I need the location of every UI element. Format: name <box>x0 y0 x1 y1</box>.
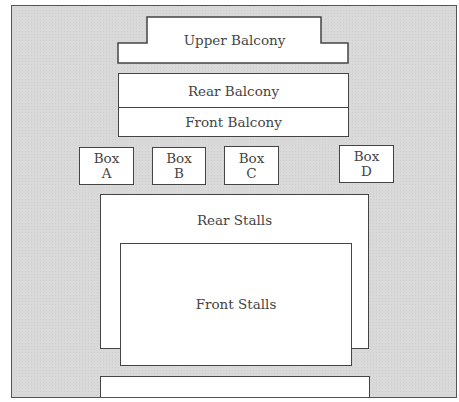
box-c-label-line1: Box <box>239 151 265 166</box>
rear-stalls-label: Rear Stalls <box>197 213 272 228</box>
upper-balcony-label: Upper Balcony <box>184 32 286 48</box>
front-stalls-label: Front Stalls <box>196 297 277 312</box>
box-a-section[interactable]: Box A <box>79 147 134 185</box>
rear-balcony-section[interactable]: Rear Balcony <box>118 73 349 109</box>
bottom-area-section[interactable] <box>100 376 370 397</box>
box-b-label-line2: B <box>174 166 184 181</box>
front-stalls-section[interactable]: Front Stalls <box>120 243 352 366</box>
box-a-label-line1: Box <box>94 151 120 166</box>
box-c-label-line2: C <box>246 166 256 181</box>
box-d-label-line1: Box <box>354 149 380 164</box>
box-a-label-line2: A <box>102 166 112 181</box>
upper-balcony-section[interactable]: Upper Balcony <box>147 17 322 63</box>
box-d-label-line2: D <box>361 164 372 179</box>
front-balcony-label: Front Balcony <box>185 115 282 130</box>
rear-balcony-label: Rear Balcony <box>188 84 279 99</box>
box-c-section[interactable]: Box C <box>224 146 279 185</box>
box-b-label-line1: Box <box>166 151 192 166</box>
box-b-section[interactable]: Box B <box>152 147 206 185</box>
box-d-section[interactable]: Box D <box>339 145 394 183</box>
front-balcony-section[interactable]: Front Balcony <box>118 107 349 137</box>
